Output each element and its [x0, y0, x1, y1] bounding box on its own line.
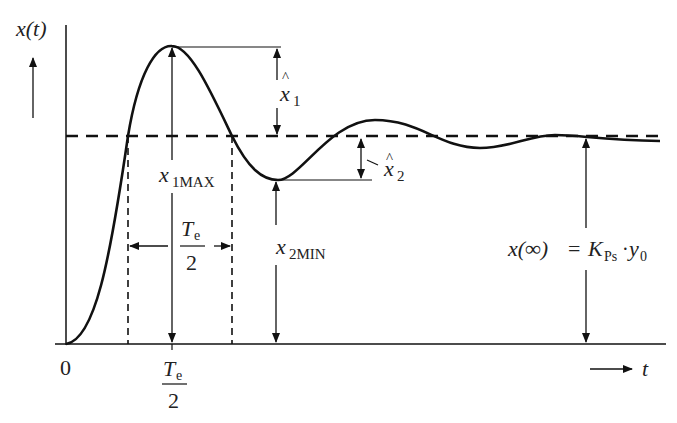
- origin-label: 0: [60, 355, 71, 380]
- x1max-label: x 1MAX: [158, 162, 215, 190]
- x2hat-leader: [367, 160, 378, 165]
- svg-text:1: 1: [293, 93, 301, 109]
- svg-text:Ps: Ps: [604, 249, 617, 264]
- y-axis-label: x(t): [15, 16, 47, 41]
- svg-text:T: T: [181, 216, 195, 241]
- svg-text:2: 2: [168, 388, 179, 413]
- step-response-diagram: x(t) t 0 ^ x 1 ^ x 2 x 1MAX x 2MIN T e 2…: [0, 0, 677, 423]
- x2min-label: x 2MIN: [275, 234, 326, 262]
- svg-text:2: 2: [397, 168, 405, 184]
- svg-text:x: x: [383, 156, 394, 181]
- steady-state-label: x(∞) = K Ps · y 0: [507, 236, 647, 264]
- svg-text:2: 2: [186, 250, 197, 275]
- x1hat-label: ^ x 1: [279, 69, 301, 109]
- svg-text:x: x: [158, 162, 169, 187]
- svg-text:T: T: [163, 356, 177, 381]
- svg-text:K: K: [587, 236, 604, 261]
- svg-text:·: ·: [622, 238, 629, 260]
- svg-text:=: =: [568, 236, 580, 261]
- half-period-label: T e 2: [180, 216, 205, 275]
- svg-text:2MIN: 2MIN: [289, 246, 326, 262]
- svg-text:x: x: [275, 234, 286, 259]
- svg-text:e: e: [194, 228, 200, 243]
- x-axis-label: t: [642, 356, 649, 381]
- svg-text:1MAX: 1MAX: [172, 174, 215, 190]
- svg-text:x: x: [279, 81, 290, 106]
- svg-text:0: 0: [640, 249, 647, 264]
- response-curve: [66, 46, 660, 344]
- axis-tick-label: T e 2: [162, 356, 187, 413]
- svg-text:y: y: [627, 236, 639, 261]
- x2hat-label: ^ x 2: [383, 150, 405, 184]
- svg-text:x(∞): x(∞): [507, 236, 548, 261]
- svg-text:e: e: [176, 368, 182, 383]
